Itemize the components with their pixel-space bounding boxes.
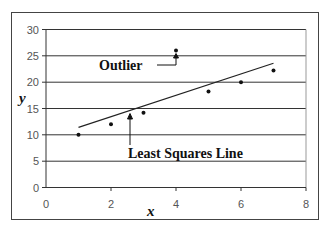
data-point [239, 80, 243, 84]
svg-text:5: 5 [33, 155, 39, 167]
x-axis-title: x [146, 203, 155, 219]
outlier-arrow [157, 54, 179, 66]
svg-text:8: 8 [303, 198, 309, 210]
least-squares-arrow [128, 114, 133, 146]
svg-text:0: 0 [43, 198, 49, 210]
svg-text:6: 6 [238, 198, 244, 210]
scatter-chart: 30 25 20 15 10 5 0 0 2 4 6 8 x y Outlier… [0, 0, 330, 229]
svg-text:4: 4 [173, 198, 179, 210]
axes [42, 30, 306, 192]
y-tick-labels: 30 25 20 15 10 5 0 [27, 24, 39, 194]
outlier-point [174, 49, 178, 53]
least-squares-label: Least Squares Line [128, 146, 243, 161]
svg-text:30: 30 [27, 24, 39, 36]
data-point [272, 69, 276, 73]
data-point [207, 90, 211, 94]
data-point [77, 133, 81, 137]
data-point [109, 122, 113, 126]
y-axis-title: y [17, 90, 26, 106]
x-tick-labels: 0 2 4 6 8 [43, 198, 309, 210]
svg-text:10: 10 [27, 129, 39, 141]
svg-text:0: 0 [33, 182, 39, 194]
svg-text:25: 25 [27, 50, 39, 62]
data-point [142, 111, 146, 115]
svg-text:20: 20 [27, 76, 39, 88]
outlier-label: Outlier [99, 58, 143, 73]
svg-text:2: 2 [108, 198, 114, 210]
svg-text:15: 15 [27, 103, 39, 115]
